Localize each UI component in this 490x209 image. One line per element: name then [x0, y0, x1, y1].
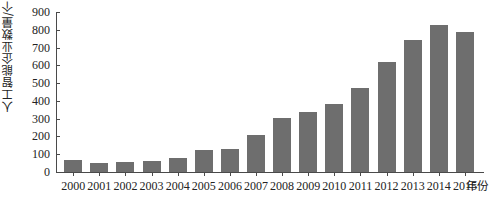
- bar: [90, 163, 108, 172]
- x-axis-tick-mark: [152, 172, 153, 176]
- bar: [430, 25, 448, 172]
- y-axis-tick-label: 400: [32, 93, 50, 109]
- y-axis-tick-label: 200: [32, 128, 50, 144]
- bar: [195, 150, 213, 172]
- x-axis-tick-mark: [308, 172, 309, 176]
- y-axis-tick-label: 800: [32, 22, 50, 38]
- bar: [221, 149, 239, 172]
- bars-container: [57, 12, 484, 173]
- bar: [299, 112, 317, 172]
- bar: [273, 118, 291, 172]
- x-axis-tick-mark: [334, 172, 335, 176]
- x-axis-tick-mark: [282, 172, 283, 176]
- y-axis-tick-label: 600: [32, 57, 50, 73]
- x-axis-tick-mark: [360, 172, 361, 176]
- bar: [64, 160, 82, 172]
- x-axis-tick-mark: [465, 172, 466, 176]
- bar: [143, 161, 161, 172]
- y-axis-tick-label: 900: [32, 4, 50, 20]
- x-axis-tick-mark: [387, 172, 388, 176]
- bar-chart: 人工智能企业数量/个 0100200300400500600700800900 …: [0, 0, 490, 209]
- y-axis-tick-label: 300: [32, 111, 50, 127]
- y-axis-title-text: 人工智能企业数量/个: [3, 0, 15, 112]
- bar: [404, 40, 422, 172]
- bar: [378, 62, 396, 172]
- x-axis-tick-mark: [178, 172, 179, 176]
- x-axis-tick-mark: [99, 172, 100, 176]
- x-axis-tick-mark: [73, 172, 74, 176]
- bar: [351, 88, 369, 172]
- x-axis-tick-mark: [204, 172, 205, 176]
- bar: [456, 32, 474, 172]
- x-axis-tick-mark: [413, 172, 414, 176]
- x-axis-tick-mark: [256, 172, 257, 176]
- x-axis-labels: 年份 2000200120022003200420052006200720082…: [0, 178, 490, 198]
- bar: [325, 104, 343, 172]
- y-axis-tick-label: 100: [32, 146, 50, 162]
- y-axis-tick-label: 500: [32, 75, 50, 91]
- y-axis-title: 人工智能企业数量/个: [0, 0, 18, 175]
- bar: [169, 158, 187, 172]
- bar: [247, 135, 265, 172]
- x-axis-tick-label: 2015: [448, 178, 482, 194]
- bar: [116, 162, 134, 172]
- x-axis-tick-mark: [125, 172, 126, 176]
- x-axis-tick-mark: [230, 172, 231, 176]
- y-axis-tick-label: 700: [32, 40, 50, 56]
- x-axis-tick-mark: [439, 172, 440, 176]
